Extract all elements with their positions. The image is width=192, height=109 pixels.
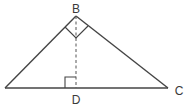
vertex-label-b: B <box>72 3 80 15</box>
side-b-c <box>76 16 168 88</box>
vertex-label-c: C <box>175 85 184 97</box>
triangle-figure <box>0 0 192 109</box>
right-angle-mark-d <box>65 77 76 88</box>
vertex-label-d: D <box>72 94 81 106</box>
